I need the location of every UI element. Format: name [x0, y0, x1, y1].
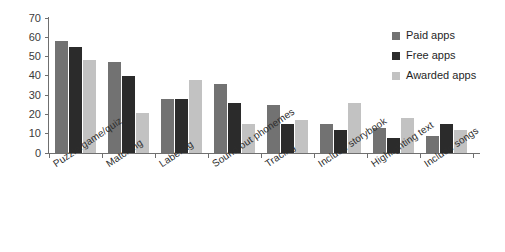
- bar: [161, 99, 174, 153]
- y-axis-tick-label: 30: [29, 90, 45, 101]
- y-axis-tick-label: 20: [29, 109, 45, 120]
- x-axis-tick-mark: [367, 153, 368, 158]
- bar-group: [161, 18, 202, 153]
- y-axis-tick-label: 40: [29, 70, 45, 81]
- y-axis-tick-label: 50: [29, 51, 45, 62]
- bar-group: [108, 18, 149, 153]
- legend-label: Free apps: [406, 50, 456, 61]
- legend-swatch-icon: [392, 72, 400, 80]
- x-axis-tick-mark: [102, 153, 103, 158]
- bar: [214, 84, 227, 153]
- bar-chart: 706050403020100 Puzzle/game/quizMatching…: [0, 0, 505, 252]
- legend-swatch-icon: [392, 52, 400, 60]
- chart-legend: Paid appsFree appsAwarded apps: [392, 30, 476, 90]
- x-axis-tick-mark: [49, 153, 50, 158]
- bar: [69, 47, 82, 153]
- y-axis-tick-label: 70: [29, 13, 45, 24]
- y-axis-tick-label: 0: [35, 148, 45, 159]
- legend-item: Awarded apps: [392, 70, 476, 81]
- legend-item: Free apps: [392, 50, 476, 61]
- x-axis-tick-mark: [420, 153, 421, 158]
- x-axis-tick-mark: [261, 153, 262, 158]
- bar: [108, 62, 121, 153]
- legend-label: Awarded apps: [406, 70, 476, 81]
- legend-label: Paid apps: [406, 30, 455, 41]
- x-axis-tick-mark: [314, 153, 315, 158]
- legend-item: Paid apps: [392, 30, 476, 41]
- x-axis-tick-mark: [155, 153, 156, 158]
- legend-swatch-icon: [392, 32, 400, 40]
- y-axis-tick-label: 60: [29, 32, 45, 43]
- bar-group: [267, 18, 308, 153]
- bar: [295, 120, 308, 153]
- y-axis-tick-label: 10: [29, 128, 45, 139]
- bar: [55, 41, 68, 153]
- x-axis-tick-mark: [208, 153, 209, 158]
- x-axis-tick-mark: [473, 153, 474, 158]
